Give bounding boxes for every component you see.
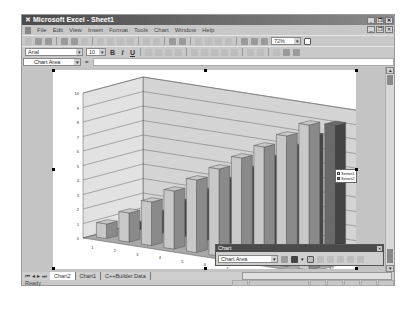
underline-button[interactable]: U xyxy=(129,49,136,56)
by-row-icon[interactable] xyxy=(327,256,334,263)
tab-chart2[interactable]: Chart2 xyxy=(50,272,76,280)
by-column-icon[interactable] xyxy=(337,256,344,263)
menu-view[interactable]: View xyxy=(69,27,82,33)
menu-insert[interactable]: Insert xyxy=(88,27,103,33)
copy-icon[interactable] xyxy=(107,38,114,45)
help-icon[interactable] xyxy=(304,38,311,45)
prev-sheet-icon[interactable]: ◂ xyxy=(32,273,35,280)
selection-handle[interactable] xyxy=(52,168,55,171)
drawing-icon[interactable] xyxy=(261,38,268,45)
font-select[interactable]: Arial ▾ xyxy=(25,48,83,56)
sort-descending-icon[interactable] xyxy=(225,38,232,45)
last-sheet-icon[interactable]: ⏭ xyxy=(42,273,47,280)
percent-icon[interactable] xyxy=(201,49,208,56)
print-icon[interactable] xyxy=(61,38,68,45)
print-preview-icon[interactable] xyxy=(71,38,78,45)
chart-wizard-icon[interactable] xyxy=(241,38,248,45)
close-button[interactable]: ✕ xyxy=(385,17,393,24)
merge-center-icon[interactable] xyxy=(175,49,182,56)
name-box[interactable]: Chart Area ▾ xyxy=(23,58,81,66)
selection-handle[interactable] xyxy=(355,168,358,171)
scroll-down-button[interactable]: ▾ xyxy=(386,265,394,272)
chart-sheet: 01234567891012345678910S1S2 Series1 Seri… xyxy=(22,67,386,272)
chart-area[interactable]: 01234567891012345678910S1S2 Series1 Seri… xyxy=(53,70,356,269)
separator xyxy=(92,37,93,45)
close-icon[interactable]: ✕ xyxy=(377,246,382,251)
menu-help[interactable]: Help xyxy=(202,27,214,33)
doc-restore-button[interactable]: ❐ xyxy=(376,26,384,33)
chart-toolbar-title-bar[interactable]: Chart ✕ xyxy=(216,245,383,252)
data-table-icon[interactable] xyxy=(317,256,324,263)
increase-indent-icon[interactable] xyxy=(257,49,264,56)
save-icon[interactable] xyxy=(45,38,52,45)
format-chart-area-icon[interactable] xyxy=(281,256,288,263)
doc-minimize-button[interactable]: _ xyxy=(367,26,375,33)
fill-color-icon[interactable] xyxy=(283,49,290,56)
minimize-button[interactable]: _ xyxy=(367,17,375,24)
menu-format[interactable]: Format xyxy=(109,27,128,33)
tab-cpp-builder-data[interactable]: C++Builder Data xyxy=(101,272,151,280)
legend-icon[interactable] xyxy=(307,256,314,263)
menu-file[interactable]: File xyxy=(37,27,47,33)
increase-decimal-icon[interactable] xyxy=(221,49,228,56)
sort-ascending-icon[interactable] xyxy=(215,38,222,45)
function-icon[interactable] xyxy=(205,38,212,45)
selection-handle[interactable] xyxy=(204,267,207,270)
menu-window[interactable]: Window xyxy=(175,27,196,33)
format-painter-icon[interactable] xyxy=(127,38,134,45)
menu-chart[interactable]: Chart xyxy=(154,27,169,33)
chart-type-icon[interactable] xyxy=(291,256,298,263)
redo-icon[interactable] xyxy=(153,38,160,45)
3d-column-chart[interactable]: 01234567891012345678910S1S2 xyxy=(53,70,356,269)
chevron-down-icon[interactable]: ▾ xyxy=(301,256,304,262)
scroll-up-button[interactable]: ▴ xyxy=(386,67,394,74)
formula-equals-icon[interactable]: = xyxy=(85,59,89,65)
chart-legend[interactable]: Series1 Series2 xyxy=(335,169,357,183)
vertical-scrollbar[interactable]: ▴ ▾ xyxy=(385,67,394,272)
menu-edit[interactable]: Edit xyxy=(53,27,63,33)
first-sheet-icon[interactable]: ⏮ xyxy=(25,273,30,280)
angle-text-downward-icon[interactable] xyxy=(347,256,354,263)
selection-handle[interactable] xyxy=(355,267,358,270)
horizontal-scrollbar[interactable] xyxy=(242,272,392,280)
doc-close-button[interactable]: ✕ xyxy=(385,26,393,33)
scroll-thumb[interactable] xyxy=(387,75,393,85)
spelling-icon[interactable] xyxy=(81,38,88,45)
new-icon[interactable] xyxy=(25,38,32,45)
formula-bar[interactable] xyxy=(93,58,394,66)
font-color-icon[interactable] xyxy=(293,49,300,56)
menu-tools[interactable]: Tools xyxy=(134,27,148,33)
paste-icon[interactable] xyxy=(117,38,124,45)
decrease-indent-icon[interactable] xyxy=(247,49,254,56)
italic-button[interactable]: I xyxy=(119,49,126,56)
selection-handle[interactable] xyxy=(204,69,207,72)
chart-objects-select[interactable]: Chart Area ▾ xyxy=(218,255,278,263)
currency-icon[interactable] xyxy=(191,49,198,56)
cut-icon[interactable] xyxy=(97,38,104,45)
decrease-decimal-icon[interactable] xyxy=(231,49,238,56)
selection-handle[interactable] xyxy=(52,69,55,72)
autosum-icon[interactable] xyxy=(195,38,202,45)
web-toolbar-icon[interactable] xyxy=(179,38,186,45)
zoom-select[interactable]: 72% ▾ xyxy=(271,37,301,45)
open-icon[interactable] xyxy=(35,38,42,45)
font-size-select[interactable]: 10 ▾ xyxy=(86,48,106,56)
align-center-icon[interactable] xyxy=(155,49,162,56)
next-sheet-icon[interactable]: ▸ xyxy=(37,273,40,280)
bold-button[interactable]: B xyxy=(109,49,116,56)
restore-button[interactable]: ❐ xyxy=(376,17,384,24)
status-cell xyxy=(249,280,309,286)
hyperlink-icon[interactable] xyxy=(169,38,176,45)
map-icon[interactable] xyxy=(251,38,258,45)
angle-text-upward-icon[interactable] xyxy=(357,256,364,263)
selection-handle[interactable] xyxy=(355,69,358,72)
tab-chart1[interactable]: Chart1 xyxy=(76,272,102,280)
undo-icon[interactable] xyxy=(143,38,150,45)
align-right-icon[interactable] xyxy=(165,49,172,56)
font-size-value: 10 xyxy=(89,49,95,55)
legend-entry: Series2 xyxy=(337,176,355,181)
selection-handle[interactable] xyxy=(52,267,55,270)
comma-icon[interactable] xyxy=(211,49,218,56)
align-left-icon[interactable] xyxy=(145,49,152,56)
borders-icon[interactable] xyxy=(273,49,280,56)
